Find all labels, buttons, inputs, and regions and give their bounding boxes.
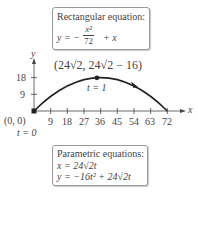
x-tick-label: 45 (112, 116, 122, 127)
y-axis-label: y (31, 48, 35, 59)
param-eq-title: Parametric equations: (57, 148, 144, 159)
vertex-label: (24√2, 24√2 − 16) (54, 58, 142, 73)
x-tick-label: 63 (145, 116, 155, 127)
y-tick-label: 9 (20, 89, 25, 100)
x-axis-arrow-icon (180, 109, 186, 113)
x-tick-label: 36 (95, 116, 105, 127)
t1-label: t = 1 (87, 82, 107, 93)
x-axis-label: x (188, 104, 192, 115)
t0-label: t = 0 (17, 127, 37, 138)
y-tick-label: 18 (16, 72, 26, 83)
x-tick-label: 72 (162, 116, 172, 127)
origin-label: (0, 0) (4, 115, 26, 126)
x-tick-label: 54 (129, 116, 139, 127)
param-eq-x: x = 24√2t (57, 160, 96, 171)
param-eq-y: y = −16t² + 24√2t (57, 171, 131, 182)
x-tick-label: 27 (79, 116, 89, 127)
parametric-equations-box: Parametric equations: x = 24√2t y = −16t… (52, 145, 148, 186)
x-tick-label: 18 (62, 116, 72, 127)
x-tick-label: 9 (48, 116, 53, 127)
origin-point (32, 109, 37, 114)
vertex-point (95, 75, 100, 80)
